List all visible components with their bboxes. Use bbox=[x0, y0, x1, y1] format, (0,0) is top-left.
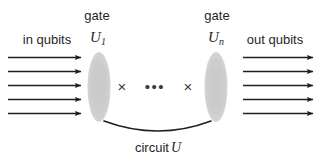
circuit-caption-text: circuit bbox=[135, 140, 169, 155]
gate-symbol-u1-subscript: 1 bbox=[101, 36, 106, 47]
circuit-caption-symbol: U bbox=[169, 140, 181, 155]
gate-ellipse-u1 bbox=[88, 52, 111, 122]
in-qubits-label: in qubits bbox=[23, 33, 71, 46]
gate-label-right: gate bbox=[204, 9, 229, 22]
circuit-brace-curve bbox=[104, 121, 211, 131]
gate-symbol-u1: U1 bbox=[90, 30, 106, 47]
cross-mark-right: × bbox=[184, 78, 193, 95]
out-qubits-label: out qubits bbox=[247, 33, 303, 46]
cross-mark-left: × bbox=[118, 78, 127, 95]
gate-symbol-u1-base: U bbox=[90, 29, 101, 45]
quantum-circuit-figure: gate gate in qubits out qubits U1 Un × •… bbox=[0, 0, 323, 164]
ellipsis-icon: ••• bbox=[145, 78, 165, 95]
gate-ellipse-un bbox=[205, 52, 228, 122]
gate-symbol-un: Un bbox=[208, 30, 224, 47]
gate-label-left: gate bbox=[84, 9, 109, 22]
circuit-caption: circuitU bbox=[135, 141, 181, 155]
gate-symbol-un-base: U bbox=[208, 29, 219, 45]
out-qubit-arrows bbox=[243, 58, 313, 114]
in-qubit-arrows bbox=[8, 58, 81, 114]
gate-symbol-un-subscript: n bbox=[219, 36, 224, 47]
